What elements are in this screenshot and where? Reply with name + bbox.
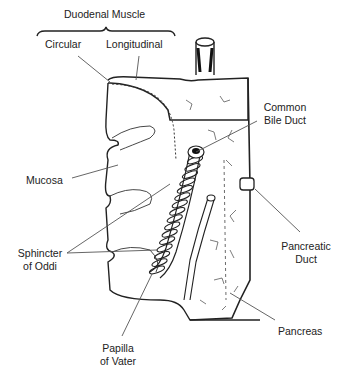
leader-longitudinal — [136, 56, 139, 80]
label-longitudinal: Longitudinal — [106, 38, 163, 51]
label-pancreatic-duct: Pancreatic Duct — [275, 240, 337, 266]
leader-circular — [78, 56, 110, 82]
bile-duct-shade — [198, 48, 212, 72]
label-sphincter-line2: of Oddi — [12, 260, 68, 273]
duct-channel-2 — [160, 156, 200, 278]
label-common-bile-duct: Common Bile Duct — [255, 101, 315, 127]
label-pancreatic-duct-line1: Pancreatic — [275, 240, 337, 253]
label-duodenal-muscle: Duodenal Muscle — [64, 8, 145, 21]
bile-duct-opening — [196, 38, 214, 46]
leader-mucosa — [72, 165, 118, 178]
diagram-canvas: Duodenal Muscle Circular Longitudinal Co… — [0, 0, 345, 377]
pancreatic-duct-tube — [184, 198, 214, 300]
label-circular: Circular — [45, 38, 81, 51]
label-sphincter-line1: Sphincter — [12, 247, 68, 260]
muscle-layer-top — [108, 77, 248, 120]
label-papilla-line2: of Vater — [88, 355, 148, 368]
label-pancreas: Pancreas — [278, 325, 322, 338]
leader-papilla — [122, 274, 152, 336]
label-papilla-line1: Papilla — [88, 342, 148, 355]
mucosa-contour — [106, 83, 261, 320]
label-common-bile-duct-line2: Bile Duct — [255, 114, 315, 127]
mucosa-fold-1 — [112, 126, 155, 150]
leader-lines — [67, 56, 300, 336]
sphincter-coils — [149, 155, 204, 275]
label-common-bile-duct-line1: Common — [255, 101, 315, 114]
muscle-layer-curve — [112, 84, 176, 160]
duodenal-muscle-brace — [37, 27, 175, 36]
leader-common-bile-duct — [196, 121, 257, 152]
pancreas-outline — [190, 78, 250, 320]
label-pancreatic-duct-line2: Duct — [275, 253, 337, 266]
label-mucosa: Mucosa — [26, 174, 63, 187]
pancreas-inner-edge — [224, 160, 226, 300]
label-sphincter-of-oddi: Sphincter of Oddi — [12, 247, 68, 273]
leader-sphincter-1 — [67, 184, 170, 253]
duodenum-wall-outline — [108, 83, 248, 120]
anatomy-drawing — [0, 0, 345, 377]
pancreatic-duct-stub — [240, 178, 254, 190]
pancreatic-duct-opening — [207, 195, 215, 201]
label-papilla-of-vater: Papilla of Vater — [88, 342, 148, 368]
leader-pancreatic-duct — [255, 189, 300, 232]
